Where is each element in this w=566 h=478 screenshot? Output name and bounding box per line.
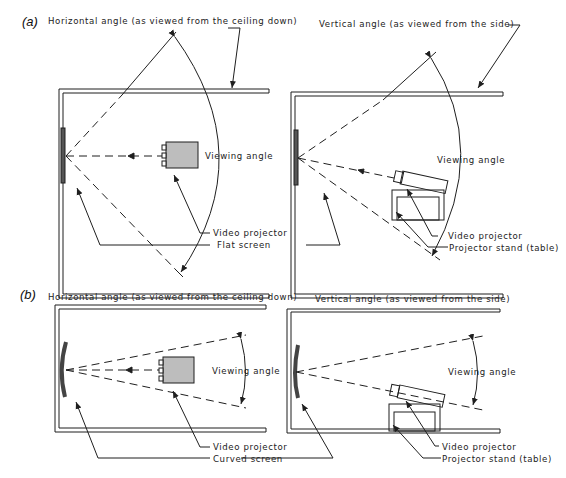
callout-flat-screen: Flat screen (217, 240, 271, 250)
callout-projector-stand-b: Projector stand (table) (442, 454, 552, 464)
room-a-right (291, 92, 503, 298)
title-b-vertical: Vertical angle (as viewed from the side) (315, 294, 510, 304)
callout-video-projector-b-left: Video projector (213, 442, 287, 452)
callout-video-projector-a-right: Video projector (448, 231, 522, 241)
title-a-vertical: Vertical angle (as viewed from the side) (319, 19, 514, 29)
room-a-left (59, 89, 269, 298)
projector-b-left (159, 357, 194, 383)
callout-curved-screen: Curved screen (213, 454, 283, 464)
callout-projector-stand-a: Projector stand (table) (449, 243, 559, 253)
projector-a-left (162, 142, 198, 168)
curved-screen-b (62, 342, 66, 397)
title-b-horizontal: Horizontal angle (as viewed from the cei… (48, 292, 297, 302)
viewing-angle-a-right: Viewing angle (437, 155, 505, 165)
flat-screen-a (61, 128, 65, 183)
callout-video-projector-a-left: Video projector (213, 228, 287, 238)
viewing-angle-b-left: Viewing angle (212, 366, 280, 376)
panel-tag-b: (b) (20, 287, 36, 302)
panel-tag-a: (a) (22, 14, 38, 29)
viewing-angle-a-left: Viewing angle (205, 151, 273, 161)
callout-video-projector-b-right: Video projector (442, 442, 516, 452)
stand-b-right (389, 404, 440, 431)
title-a-horizontal: Horizontal angle (as viewed from the cei… (48, 16, 297, 26)
viewing-angle-b-right: Viewing angle (448, 367, 516, 377)
